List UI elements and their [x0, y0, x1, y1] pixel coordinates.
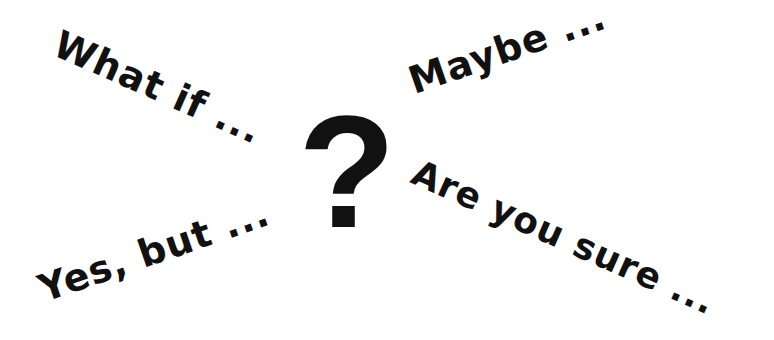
- phrase-yes-but: Yes, but ...: [33, 191, 275, 311]
- phrase-maybe: Maybe ...: [403, 0, 612, 103]
- phrase-what-if: What if ...: [47, 22, 269, 153]
- phrase-are-you-sure: Are you sure ...: [406, 152, 722, 323]
- question-mark-icon: ?: [298, 92, 396, 252]
